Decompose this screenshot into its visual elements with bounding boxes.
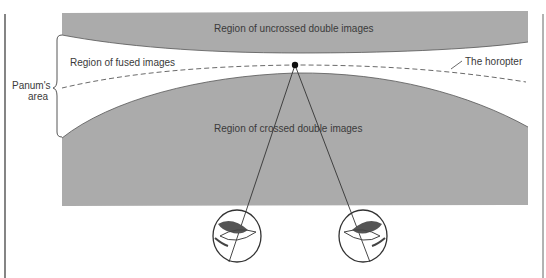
crossed-region	[62, 73, 528, 206]
horopter-leader-line	[451, 61, 462, 69]
right-eye-icon	[339, 210, 387, 262]
uncrossed-region-label: Region of uncrossed double images	[214, 23, 374, 34]
left-eye-icon	[213, 210, 261, 262]
panum-brace	[53, 35, 62, 137]
fixation-point	[292, 62, 298, 68]
panum-label-line1: Panum's	[12, 80, 51, 91]
crossed-region-label: Region of crossed double images	[214, 123, 362, 134]
fused-region-label: Region of fused images	[70, 57, 175, 68]
horopter-label: The horopter	[465, 56, 522, 67]
diagram-canvas	[0, 0, 546, 278]
panum-label-line2: area	[28, 91, 48, 102]
